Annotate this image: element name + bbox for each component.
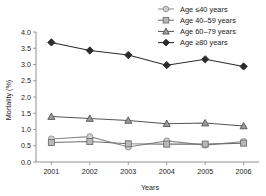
data-point-marker <box>202 141 208 147</box>
legend-item: Age ≤40 years <box>158 5 228 14</box>
series-line <box>51 117 243 126</box>
y-tick-label: 1.5 <box>21 109 31 118</box>
chart-legend: Age ≤40 yearsAge 40–59 yearsAge 60–79 ye… <box>158 5 236 48</box>
data-point-marker <box>164 141 170 147</box>
data-point-marker <box>241 140 247 146</box>
legend-label: Age ≥80 years <box>180 38 228 47</box>
y-tick-label: 3.5 <box>21 44 31 53</box>
data-point-marker <box>125 141 131 147</box>
series-line <box>51 142 243 145</box>
legend-label: Age 40–59 years <box>180 16 236 25</box>
y-tick-label: 0.5 <box>21 141 31 150</box>
y-tick-label: 3.0 <box>21 60 31 69</box>
data-point-marker <box>87 139 93 145</box>
data-point-marker <box>163 17 169 23</box>
x-tick-label: 2001 <box>43 167 59 176</box>
data-point-marker <box>240 63 247 70</box>
data-point-marker <box>125 51 132 58</box>
x-tick-label: 2002 <box>82 167 98 176</box>
data-point-marker <box>48 140 54 146</box>
y-tick-label: 4.0 <box>21 28 31 37</box>
legend-label: Age 60–79 years <box>180 27 236 36</box>
x-tick-label: 2004 <box>159 167 175 176</box>
y-tick-label: 0.0 <box>21 158 31 167</box>
y-tick-label: 2.5 <box>21 76 31 85</box>
chart-series <box>48 39 248 150</box>
data-point-marker <box>163 6 169 12</box>
x-axis-title: Years <box>141 183 160 192</box>
x-axis-ticks: 200120022003200420052006 <box>43 162 251 176</box>
y-tick-label: 1.0 <box>21 125 31 134</box>
legend-label: Age ≤40 years <box>180 5 228 14</box>
legend-item: Age 60–79 years <box>158 27 236 36</box>
series-2 <box>48 139 246 148</box>
legend-item: Age 40–59 years <box>158 16 236 25</box>
chart-canvas: Age ≤40 yearsAge 40–59 yearsAge 60–79 ye… <box>0 0 266 196</box>
data-point-marker <box>163 39 170 46</box>
series-3 <box>48 113 247 129</box>
y-tick-label: 2.0 <box>21 93 31 102</box>
data-point-marker <box>86 47 93 54</box>
mortality-by-age-line-chart: Age ≤40 yearsAge 40–59 yearsAge 60–79 ye… <box>0 0 266 196</box>
data-point-marker <box>48 39 55 46</box>
data-point-marker <box>163 61 170 68</box>
y-axis-ticks: 0.00.51.01.52.02.53.03.54.0 <box>21 28 36 167</box>
legend-item: Age ≥80 years <box>158 38 228 47</box>
data-point-marker <box>202 56 209 63</box>
x-tick-label: 2006 <box>236 167 252 176</box>
x-tick-label: 2003 <box>120 167 136 176</box>
y-axis-title: Mortality (%) <box>4 80 13 120</box>
x-tick-label: 2005 <box>197 167 213 176</box>
